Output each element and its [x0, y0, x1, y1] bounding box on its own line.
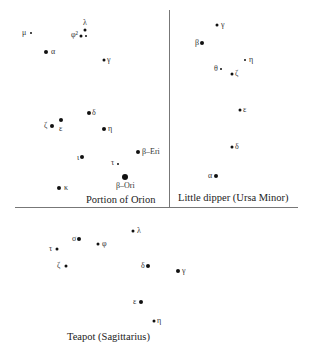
star-label: φ²: [71, 31, 78, 39]
star-label: β–Ori: [116, 182, 135, 190]
star-dot: [176, 269, 180, 273]
star-dot: [132, 230, 135, 233]
star-label: γ: [221, 21, 225, 29]
star-dot: [146, 264, 150, 268]
star-label: γ: [107, 56, 111, 64]
panel-title-sagittarius: Teapot (Sagittarius): [67, 331, 150, 342]
star-label: ι: [77, 154, 79, 162]
star-label: ζ: [57, 262, 60, 270]
star-dot: [87, 111, 91, 115]
star-label: ε: [59, 125, 62, 133]
star-dot: [214, 174, 218, 178]
star-dot: [220, 68, 222, 70]
star-label: δ: [235, 143, 239, 151]
star-label: γ: [182, 267, 186, 275]
star-label: η: [157, 317, 161, 325]
horizontal-divider: [15, 207, 298, 208]
star-label: η: [108, 125, 112, 133]
star-label: σ: [72, 235, 76, 243]
star-dot: [244, 59, 246, 61]
star-dot: [139, 300, 143, 304]
star-dot: [97, 243, 100, 246]
star-label: δ: [92, 109, 96, 117]
star-label: λ: [83, 19, 87, 27]
star-dot: [153, 320, 156, 323]
star-label: β–Eri: [142, 148, 160, 156]
star-label: ζ: [235, 70, 238, 78]
star-label: μ: [22, 29, 26, 37]
star-dot: [56, 248, 59, 251]
star-dot: [117, 163, 119, 165]
star-dot: [136, 150, 140, 154]
star-dot: [231, 146, 234, 149]
star-label: τ: [111, 159, 114, 167]
star-dot: [59, 118, 63, 122]
star-dot: [216, 24, 219, 27]
star-label: α: [208, 172, 212, 180]
vertical-divider: [169, 10, 170, 207]
star-label: ε: [243, 106, 246, 114]
star-dot: [77, 237, 81, 241]
star-label: φ: [102, 240, 107, 248]
star-dot: [30, 32, 32, 34]
star-dot: [80, 35, 83, 38]
star-dot: [200, 41, 204, 45]
star-label: θ: [214, 65, 218, 73]
star-dot: [239, 109, 242, 112]
panel-title-ursa-minor: Little dipper (Ursa Minor): [178, 192, 289, 203]
star-label: ε: [133, 298, 136, 306]
star-dot: [65, 265, 68, 268]
star-dot: [84, 29, 87, 32]
star-dot: [50, 124, 54, 128]
star-dot: [102, 127, 106, 131]
star-label: τ: [49, 245, 52, 253]
star-label: κ: [64, 184, 68, 192]
star-dot: [44, 50, 48, 54]
constellation-diagram: Portion of Orion μαφ²λγδζεηιβ–Eriτβ–Oriκ…: [0, 0, 310, 353]
star-dot: [80, 155, 84, 159]
star-label: η: [249, 56, 253, 64]
panel-title-orion: Portion of Orion: [86, 194, 155, 205]
star-label: β: [195, 39, 199, 47]
star-label: λ: [137, 227, 141, 235]
star-label: α: [51, 48, 55, 56]
star-dot: [122, 174, 128, 180]
star-dot: [231, 73, 234, 76]
star-label: δ: [141, 262, 145, 270]
star-dot: [57, 186, 61, 190]
star-dot: [103, 59, 106, 62]
star-label: ζ: [44, 122, 47, 130]
star-dot: [85, 35, 87, 37]
